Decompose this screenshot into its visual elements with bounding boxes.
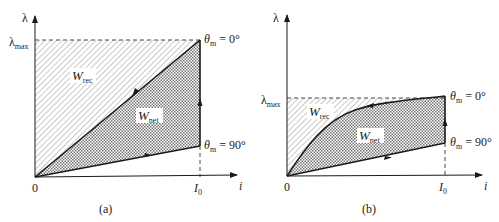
- origin-label-b: 0: [284, 180, 290, 194]
- caption-b: (b): [362, 202, 376, 216]
- lambda-i-diagrams: λ λmax Wrec Wnet θm = 0° θm = 90° 0 I0 i…: [0, 0, 499, 222]
- lambda-max-label-b: λmax: [261, 93, 281, 109]
- caption-a: (a): [99, 202, 112, 216]
- i0-label-b: I0: [438, 180, 447, 196]
- x-axis-a: [35, 175, 237, 177]
- y-axis-label-b: λ: [273, 11, 279, 25]
- x-axis-label-b: i: [484, 179, 487, 193]
- theta-0-label-b: θm = 0°: [450, 89, 486, 105]
- theta-90-label-a: θm = 90°: [204, 138, 246, 154]
- panel-a: λ λmax Wrec Wnet θm = 0° θm = 90° 0 I0 i…: [9, 11, 246, 216]
- panel-b: λ λmax Wrec Wnet θm = 0° θm = 90° 0 I0 i…: [261, 11, 492, 216]
- i0-label-a: I0: [193, 181, 202, 197]
- x-axis-label-a: i: [239, 179, 242, 193]
- arrow-right-icon: [384, 156, 392, 160]
- origin-label-a: 0: [32, 181, 38, 195]
- theta-90-label-b: θm = 90°: [450, 135, 492, 151]
- x-axis-b: [287, 175, 482, 176]
- lambda-max-label-a: λmax: [9, 35, 29, 51]
- y-axis-label-a: λ: [22, 11, 28, 25]
- theta-0-label-a: θm = 0°: [204, 32, 240, 48]
